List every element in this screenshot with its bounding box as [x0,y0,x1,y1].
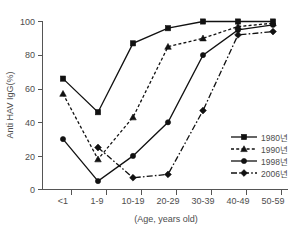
diamond-marker [165,171,172,178]
square-marker [165,26,170,31]
diamond-marker [130,174,137,181]
circle-marker [241,158,246,163]
y-tick-label-40: 40 [25,118,35,128]
circle-marker [95,179,100,184]
square-marker [95,110,100,115]
series-1980년 [60,19,275,115]
chart-legend: 1980년 1990년 1998년 2006년 [231,133,288,179]
x-tick-label-2: 10-19 [121,196,144,206]
triangle-marker [60,90,67,96]
triangle-marker [130,114,137,120]
square-marker [60,76,65,81]
x-axis-ticks [72,190,282,195]
line-chart: Anti HAV IgG(%) 100 80 60 40 20 0 [0,0,302,237]
legend-label-1980: 1980년 [261,133,288,143]
chart-container: Anti HAV IgG(%) 100 80 60 40 20 0 [0,0,302,237]
legend-glyphs [231,134,257,176]
legend-label-1998: 1998년 [261,157,288,167]
y-tick-label-0: 0 [30,185,35,195]
y-tick-label-60: 60 [25,84,35,94]
legend-item-1990[interactable]: 1990년 [261,145,288,155]
circle-marker [165,120,170,125]
x-tick-label-6: 50-59 [261,196,284,206]
y-tick-label-20: 20 [25,152,35,162]
circle-marker [60,137,65,142]
x-tick-label-3: 20-29 [156,196,179,206]
series-1990년 [60,20,277,162]
x-tick-label-4: 30-39 [191,196,214,206]
x-axis-title: (Age, years old) [134,214,198,224]
square-marker [130,41,135,46]
legend-item-1980[interactable]: 1980년 [261,133,288,143]
series-line-2006년 [98,32,273,178]
diamond-marker [270,28,277,35]
y-tick-label-100: 100 [20,17,35,27]
diamond-marker [200,107,207,114]
legend-item-1998[interactable]: 1998년 [261,157,288,167]
x-tick-label-5: 40-49 [226,196,249,206]
legend-label-1990: 1990년 [261,145,288,155]
legend-item-2006[interactable]: 2006년 [261,169,288,179]
circle-marker [200,53,205,58]
legend-label-2006: 2006년 [261,169,288,179]
x-tick-label-1: 1-9 [90,196,103,206]
circle-marker [130,153,135,158]
y-tick-label-80: 80 [25,50,35,60]
square-marker [200,19,205,24]
y-axis-ticks [38,22,43,190]
y-axis-title: Anti HAV IgG(%) [5,72,15,139]
circle-marker [270,22,275,27]
triangle-marker [95,156,102,162]
diamond-marker [241,170,248,177]
x-tick-label-0: <1 [58,196,68,206]
diamond-marker [235,32,242,39]
square-marker [241,134,246,139]
series-2006년 [95,28,277,181]
